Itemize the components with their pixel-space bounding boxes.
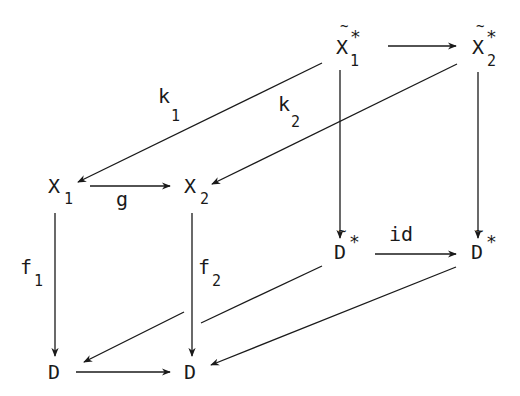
node-dt1: ~ D * (334, 223, 360, 264)
svg-text:D: D (184, 360, 196, 384)
svg-text:~: ~ (340, 18, 348, 34)
svg-text:2: 2 (212, 272, 221, 290)
arrow-k1 (78, 63, 322, 182)
commutative-cube-diagram: ~ X * 1 ~ X * 2 X 1 X 2 ~ D * ~ D * D D … (0, 0, 520, 396)
svg-text:id: id (389, 222, 413, 246)
svg-text:D: D (471, 240, 483, 264)
svg-text:k: k (158, 84, 170, 108)
svg-text:k: k (278, 92, 290, 116)
arrow-dt2-d2 (211, 267, 456, 365)
svg-text:*: * (486, 231, 497, 252)
svg-text:*: * (350, 26, 361, 47)
svg-text:1: 1 (171, 107, 180, 125)
svg-text:X: X (472, 35, 484, 59)
svg-text:~: ~ (476, 18, 484, 34)
arrow-dt1-d1-lower (84, 312, 184, 362)
svg-text:2: 2 (291, 113, 300, 131)
svg-text:~: ~ (338, 223, 346, 239)
svg-text:*: * (349, 231, 360, 252)
label-k1: k 1 (158, 84, 180, 125)
svg-text:1: 1 (64, 190, 73, 208)
node-x2: X 2 (184, 174, 209, 208)
svg-text:D: D (334, 240, 346, 264)
label-g: g (116, 187, 128, 211)
node-xt2: ~ X * 2 (472, 18, 497, 70)
svg-text:f: f (198, 255, 210, 279)
svg-text:~: ~ (475, 223, 483, 239)
svg-text:2: 2 (487, 52, 496, 70)
node-d1: D (48, 360, 60, 384)
node-d2: D (184, 360, 196, 384)
svg-text:X: X (48, 174, 60, 198)
svg-text:2: 2 (200, 190, 209, 208)
svg-text:X: X (184, 174, 196, 198)
arrow-k2 (212, 64, 457, 184)
svg-text:f: f (20, 255, 32, 279)
node-x1: X 1 (48, 174, 73, 208)
label-f2: f 2 (198, 255, 221, 290)
node-dt2: ~ D * (471, 223, 497, 264)
svg-text:g: g (116, 187, 128, 211)
label-id: id (389, 222, 413, 246)
svg-text:*: * (486, 26, 497, 47)
label-f1: f 1 (20, 255, 43, 290)
node-xt1: ~ X * 1 (336, 18, 361, 70)
svg-text:D: D (48, 360, 60, 384)
svg-text:1: 1 (350, 52, 359, 70)
svg-text:1: 1 (34, 272, 43, 290)
svg-text:X: X (336, 35, 348, 59)
label-k2: k 2 (278, 92, 300, 131)
